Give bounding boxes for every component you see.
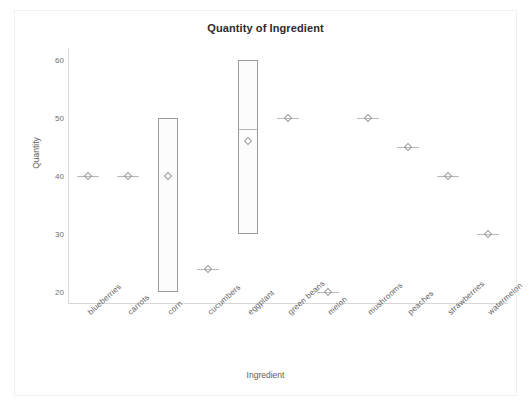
mean-marker-carrots <box>124 172 132 180</box>
mean-marker-melon <box>324 288 332 296</box>
mean-marker-green-beans <box>284 114 292 122</box>
mean-marker-strawberries <box>444 172 452 180</box>
boxplot-chart: Quantity of Ingredient Quantity 20304050… <box>0 0 531 408</box>
y-axis-tick-labels: 2030405060 <box>34 48 64 304</box>
plot-area <box>68 48 508 304</box>
y-tick-label: 20 <box>55 288 64 297</box>
y-tick-label: 50 <box>55 113 64 122</box>
mean-marker-watermelon <box>484 230 492 238</box>
chart-title: Quantity of Ingredient <box>0 22 531 34</box>
y-tick-label: 30 <box>55 230 64 239</box>
box-eggplant <box>238 60 258 235</box>
mean-marker-mushrooms <box>364 114 372 122</box>
x-axis-label: Ingredient <box>0 370 531 380</box>
mean-marker-cucumbers <box>204 265 212 273</box>
y-tick-label: 40 <box>55 172 64 181</box>
x-axis-tick-labels: blueberriescarrotscorncucumberseggplantg… <box>68 304 508 374</box>
mean-marker-blueberries <box>84 172 92 180</box>
median-line-eggplant <box>238 129 258 130</box>
box-corn <box>158 118 178 293</box>
y-tick-label: 60 <box>55 55 64 64</box>
mean-marker-peaches <box>404 143 412 151</box>
